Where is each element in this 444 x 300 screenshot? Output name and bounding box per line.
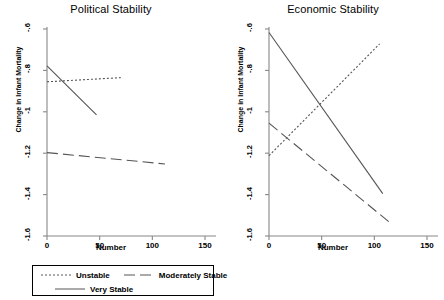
legend-entry-moderately-stable: Moderately Stable [124,271,227,280]
legend-entry-unstable: Unstable [41,271,110,280]
x-axis-label: Number [222,243,444,252]
legend-row: Unstable Moderately Stable [33,268,213,282]
legend-label: Moderately Stable [159,271,227,280]
y-axis-tick-label: -1.4 [23,181,32,205]
x-axis-tick-label: 0 [267,241,271,250]
series-line-unstable [47,78,121,82]
panel-economic-stability: Economic Stability Change in Infant Mort… [222,0,444,262]
chart-figure: Political Stability Change in Infant Mor… [0,0,444,300]
series-line-moderately-stable [269,123,389,222]
x-axis-tick-label: 0 [45,241,49,250]
y-axis-tick-label: -1.6 [23,223,32,247]
legend-label: Very Stable [90,285,133,294]
panel-political-stability: Political Stability Change in Infant Mor… [0,0,222,262]
legend-key-solid-icon [55,285,85,293]
legend-key-dashed-icon [124,271,154,279]
y-axis-tick-label: -1.2 [23,140,32,164]
x-axis-tick-label: 50 [317,241,326,250]
y-axis-tick-label: -1.6 [245,223,254,247]
y-axis-tick-label: -1 [23,98,32,122]
legend-key-dotted-icon [41,271,71,279]
series-line-unstable [269,44,380,156]
y-axis-label: Change in Infant Mortality [15,35,22,145]
series-line-moderately-stable [47,153,165,164]
legend-entry-very-stable: Very Stable [55,285,133,294]
y-axis-label: Change in Infant Mortality [237,35,244,145]
plot-area-economic [222,0,444,262]
x-axis-tick-label: 50 [95,241,104,250]
y-axis-tick-label: -.6 [23,16,32,40]
x-axis-label: Number [0,243,222,252]
x-axis-tick-label: 150 [198,241,211,250]
x-axis-tick-label: 100 [146,241,159,250]
y-axis-tick-label: -.8 [245,57,254,81]
y-axis-tick-label: -.8 [23,57,32,81]
y-axis-tick-label: -1 [245,98,254,122]
y-axis-tick-label: -.6 [245,16,254,40]
x-axis-tick-label: 150 [420,241,433,250]
chart-legend: Unstable Moderately Stable Very Stable [32,265,214,296]
legend-label: Unstable [76,271,110,280]
y-axis-tick-label: -1.2 [245,140,254,164]
y-axis-tick-label: -1.4 [245,181,254,205]
legend-row: Very Stable [33,282,213,296]
x-axis-tick-label: 100 [368,241,381,250]
plot-area-political [0,0,222,262]
series-line-very-stable [47,66,97,115]
